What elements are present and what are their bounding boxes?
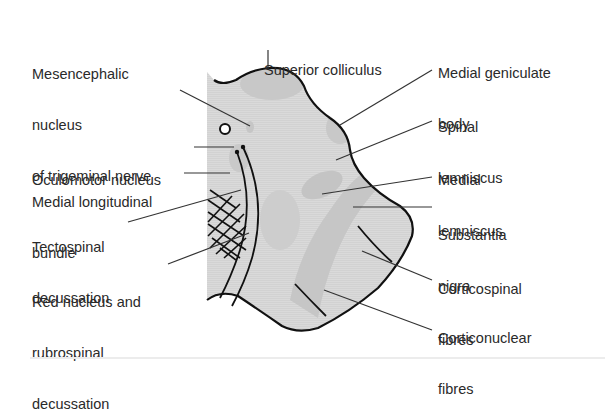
label-line: Medial — [438, 172, 502, 189]
cerebral-aqueduct — [220, 124, 230, 134]
label-line: Superior colliculus — [264, 62, 382, 79]
interpeduncular-notch — [207, 294, 238, 340]
label-line: rubrospinal — [32, 345, 141, 362]
label-superior-colliculus: Superior colliculus — [264, 28, 382, 96]
label-line: nucleus — [32, 117, 151, 134]
midbrain-section — [207, 68, 413, 340]
label-line: Mesencephalic — [32, 66, 151, 83]
label-line: Medial geniculate — [438, 65, 551, 82]
label-line: Corticonuclear — [438, 330, 532, 347]
bottom-divider — [30, 357, 605, 359]
label-line: Substantia — [438, 227, 507, 244]
mesencephalic-nucleus-spot — [246, 121, 254, 133]
label-red-nucleus: Red nucleus and rubrospinal decussation — [32, 260, 141, 413]
label-line: decussation — [32, 396, 141, 413]
label-line: Spinal — [438, 119, 502, 136]
label-line: Red nucleus and — [32, 294, 141, 311]
red-nucleus-region — [260, 190, 300, 250]
oculomotor-dot — [241, 145, 245, 149]
label-corticonuclear-fibres: Corticonuclear fibres — [438, 296, 532, 413]
label-line: fibres — [438, 381, 532, 398]
leader-spinal-lemniscus — [336, 121, 432, 160]
mlf-dot — [235, 150, 239, 154]
label-line: Tectospinal — [32, 239, 109, 256]
